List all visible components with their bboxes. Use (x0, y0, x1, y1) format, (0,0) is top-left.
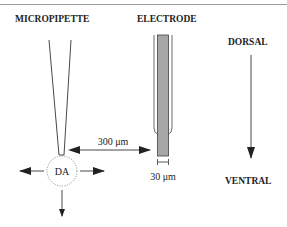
distance-arrow-left-head (68, 146, 80, 154)
da-label: DA (55, 166, 70, 177)
diagram-canvas: MICROPIPETTE ELECTRODE DORSAL VENTRAL DA… (0, 0, 287, 227)
electrode-width-scale-bar (158, 159, 169, 165)
micropipette-label: MICROPIPETTE (15, 14, 89, 24)
distance-label: 300 μm (98, 136, 129, 147)
ventral-label: VENTRAL (225, 176, 271, 186)
micropipette (49, 40, 71, 155)
electrode-label: ELECTRODE (137, 14, 197, 24)
electrode-width-label: 30 μm (150, 171, 176, 182)
electrode (154, 35, 172, 156)
dorsal-label: DORSAL (228, 37, 268, 47)
